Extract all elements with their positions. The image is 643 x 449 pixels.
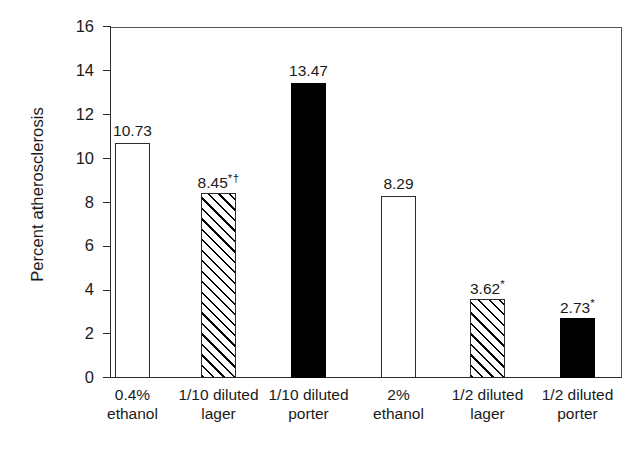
y-tick-label: 10	[34, 149, 94, 168]
x-category-line1: 1/10 diluted	[178, 386, 258, 403]
bar-value-label-1: 10.73	[113, 122, 152, 140]
y-tick-mark	[103, 114, 111, 115]
bar-3	[291, 83, 326, 378]
bar-5	[470, 299, 505, 378]
significance-marker-5: *	[500, 278, 505, 290]
bar-value-number: 8.45	[198, 174, 228, 191]
y-tick-mark	[103, 377, 111, 378]
bar-chart-figure: Percent atherosclerosis 1614121086420 10…	[0, 0, 643, 449]
y-tick-label: 4	[34, 280, 94, 299]
y-tick-label: 12	[34, 105, 94, 124]
bar-value-label-5: 3.62*	[470, 278, 505, 298]
bar-2	[201, 193, 236, 378]
bar-value-label-3: 13.47	[289, 62, 328, 80]
bar-value-number: 8.29	[383, 175, 413, 192]
bar-1	[115, 143, 150, 378]
x-category-label-1: 0.4%ethanol	[107, 385, 158, 423]
bar-4	[381, 196, 416, 378]
x-category-line1: 1/2 diluted	[542, 386, 614, 403]
bar-value-number: 2.73	[560, 299, 590, 316]
x-category-line1: 1/10 diluted	[268, 386, 348, 403]
y-tick-mark	[103, 70, 111, 71]
y-tick-label: 8	[34, 193, 94, 212]
y-tick-mark	[103, 246, 111, 247]
x-category-label-2: 1/10 dilutedlager	[178, 385, 258, 423]
bar-value-number: 3.62	[470, 280, 500, 297]
x-category-label-4: 2%ethanol	[373, 385, 424, 423]
y-tick-label: 6	[34, 236, 94, 255]
y-tick-mark	[103, 26, 111, 27]
x-category-line1: 1/2 diluted	[452, 386, 524, 403]
x-category-line2: lager	[452, 404, 524, 423]
bar-value-label-2: 8.45*†	[198, 172, 240, 192]
y-tick-label: 2	[34, 324, 94, 343]
x-category-label-6: 1/2 dilutedporter	[542, 385, 614, 423]
x-category-label-3: 1/10 dilutedporter	[268, 385, 348, 423]
x-category-label-5: 1/2 dilutedlager	[452, 385, 524, 423]
x-category-line2: lager	[178, 404, 258, 423]
bar-value-label-6: 2.73*	[560, 297, 595, 317]
plot-area	[110, 27, 622, 378]
y-tick-mark	[103, 202, 111, 203]
y-tick-label: 16	[34, 17, 94, 36]
x-category-line2: porter	[268, 404, 348, 423]
y-tick-label: 0	[34, 368, 94, 387]
x-category-line2: ethanol	[373, 404, 424, 423]
bar-value-number: 13.47	[289, 62, 328, 79]
x-category-line1: 0.4%	[115, 386, 150, 403]
y-tick-label: 14	[34, 61, 94, 80]
bar-6	[560, 318, 595, 378]
bar-value-label-4: 8.29	[383, 175, 413, 193]
y-tick-mark	[103, 158, 111, 159]
y-tick-mark	[103, 333, 111, 334]
y-tick-mark	[103, 290, 111, 291]
x-category-line2: ethanol	[107, 404, 158, 423]
significance-marker-6: *	[590, 297, 595, 309]
significance-marker-2: *†	[228, 172, 240, 184]
bar-value-number: 10.73	[113, 122, 152, 139]
x-category-line1: 2%	[387, 386, 409, 403]
x-category-line2: porter	[542, 404, 614, 423]
